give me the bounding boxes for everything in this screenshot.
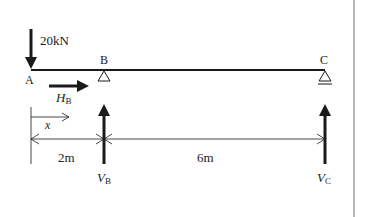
roller-support-c [318, 71, 332, 84]
vertical-reaction-b-label: VB [97, 170, 111, 186]
dimension-label-bc: 6m [197, 150, 214, 165]
point-a-label: A [25, 73, 34, 87]
point-b-label: B [100, 53, 108, 67]
x-coordinate-label: x [44, 118, 51, 132]
load-label: 20kN [40, 33, 70, 48]
vertical-reaction-c-arrow [319, 104, 331, 164]
horizontal-reaction-label: HB [55, 90, 71, 106]
dimension-line [31, 134, 325, 144]
point-c-label: C [320, 53, 328, 67]
dimension-label-ab: 2m [58, 150, 75, 165]
pin-support-b [98, 71, 110, 81]
horizontal-reaction-arrow [49, 80, 89, 92]
beam-diagram: 20kN A B C HB x 2m 6m VB [0, 0, 369, 217]
load-arrow [25, 29, 37, 69]
vertical-reaction-c-label: VC [317, 170, 331, 186]
vertical-reaction-b-arrow [98, 104, 110, 164]
